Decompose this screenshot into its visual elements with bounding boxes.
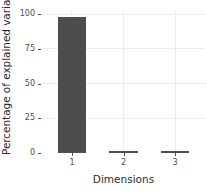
- x-axis: 123: [41, 153, 206, 173]
- gridline-vertical: [175, 10, 176, 153]
- y-tick-label: 25: [9, 114, 35, 122]
- x-tick-mark: [72, 153, 73, 156]
- x-tick-label: 3: [163, 158, 187, 167]
- x-tick-mark: [175, 153, 176, 156]
- y-tick-label: 100: [9, 10, 35, 18]
- x-axis-title: Dimensions: [40, 173, 207, 186]
- y-tick-label: 75: [9, 45, 35, 53]
- plot-panel: [41, 10, 206, 153]
- scree-plot-chart: Percentage of explained variances 025507…: [0, 0, 207, 193]
- x-tick-label: 1: [60, 158, 84, 167]
- y-tick-label: 0: [9, 149, 35, 157]
- x-tick-mark: [124, 153, 125, 156]
- x-tick-label: 2: [112, 158, 136, 167]
- gridline-vertical: [123, 10, 124, 153]
- bar[interactable]: [58, 17, 86, 153]
- y-axis: 0255075100: [10, 10, 41, 153]
- y-tick-label: 50: [9, 80, 35, 88]
